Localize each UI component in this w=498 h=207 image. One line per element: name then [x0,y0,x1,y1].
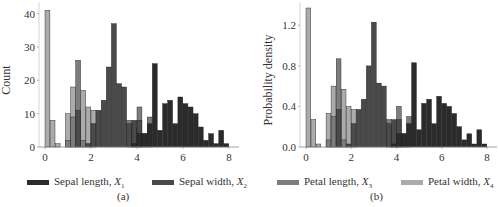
histogram-bar [71,117,76,147]
y-tick-label: 20 [24,74,36,86]
histogram-bar [361,99,366,147]
histogram-bar [209,134,214,147]
histogram-bar [311,120,316,147]
y-axis-label: Probability density [261,35,275,126]
y-tick-label: 10 [24,108,36,120]
histogram-bar [86,144,91,147]
histogram-bar [346,144,351,147]
histogram-bar [437,96,442,147]
histogram-bar [122,87,127,147]
histogram-bar [132,144,137,147]
histogram-bar [101,100,106,147]
histogram-bar [482,144,487,147]
histogram-bar [447,106,452,147]
histogram-bar [173,124,178,147]
histogram-bar [203,140,208,147]
histogram-bar [117,84,122,147]
histogram-bar [306,8,311,147]
histogram-bar [331,117,336,147]
legend-swatch [401,180,423,185]
histogram-bar [76,110,81,147]
histogram-bar [341,89,346,147]
histogram-bar [412,63,417,147]
y-axis-label: Count [0,65,13,95]
histogram-bar [366,66,371,147]
histogram-bar [336,110,341,148]
x-tick-label: 8 [484,151,490,163]
histogram-bar [452,114,457,148]
histogram-bar [417,130,422,147]
histogram-bar [402,134,407,147]
histogram-bar [127,124,132,147]
histogram-bar [91,124,96,147]
histogram-bar [351,124,356,147]
histogram-bar [81,90,86,147]
histogram-bar [178,97,183,147]
histogram-bar [142,134,147,147]
y-tick-label: 30 [24,41,36,53]
histogram-bar [397,134,402,147]
histogram-bar [442,103,447,147]
histogram-bar [427,99,432,147]
histogram-bar [152,64,157,147]
legend-swatch [152,180,174,185]
histogram-bar [65,140,70,147]
legend-item-sepal-width: Sepal width, X2 [152,175,247,190]
y-tick-label: 0.8 [282,60,296,72]
histogram-bar [137,134,142,147]
histogram-bars [306,8,487,147]
y-tick-label: 0.4 [282,100,296,112]
histogram-bar [96,110,101,147]
histogram-bar [376,83,381,147]
legend-swatch [277,180,299,185]
x-tick-label: 2 [349,151,355,163]
histogram-bar [341,140,346,147]
histogram-bar [326,140,331,147]
histogram-bar [316,144,321,147]
histogram-bar [168,100,173,147]
histogram-count-chart: Count 02468010203040 [0,0,249,172]
histogram-bar [219,130,224,147]
x-tick-label: 4 [394,151,400,163]
histogram-bar [45,10,50,147]
x-tick-label: 0 [303,151,309,163]
histogram-density-chart: Probability density 024680.00.40.81.2 [249,0,498,172]
histogram-bar [472,144,477,147]
histogram-bar [106,67,111,147]
svg-text:Probability density: Probability density [261,35,275,126]
x-tick-label: 6 [439,151,445,163]
legend-item-petal-length: Petal length, X3 [277,175,372,190]
x-tick-label: 2 [88,151,94,163]
histogram-bar [50,120,55,147]
histogram-bar [198,127,203,147]
histogram-bars [45,10,229,147]
histogram-bar [392,120,397,147]
histogram-bar [462,140,467,147]
histogram-bar [407,124,412,147]
panel-label-b: (b) [370,190,383,202]
svg-text:Count: Count [0,65,13,95]
legend-item-petal-width: Petal width, X4 [401,175,494,190]
histogram-bar [188,107,193,147]
histogram-bar [457,127,462,147]
legend-swatch [27,180,49,185]
x-tick-label: 6 [180,151,186,163]
histogram-bar [163,104,168,147]
histogram-bar [111,24,116,147]
panel-label-a: (a) [117,190,129,202]
histogram-bar [477,130,482,147]
histogram-bar [55,144,60,147]
histogram-bar [132,120,137,147]
chart-legend: Sepal length, X1 Sepal width, X2 Petal l… [0,175,498,191]
y-tick-label: 40 [24,8,36,20]
histogram-bar [371,22,376,147]
x-tick-label: 8 [226,151,232,163]
histogram-bar [346,106,351,147]
y-tick-label: 1.2 [282,19,296,31]
histogram-bar [86,107,91,147]
histogram-bar [81,140,86,147]
histogram-bar [193,114,198,147]
histogram-bar [157,130,162,147]
x-tick-label: 0 [42,151,48,163]
histogram-bar [183,104,188,147]
